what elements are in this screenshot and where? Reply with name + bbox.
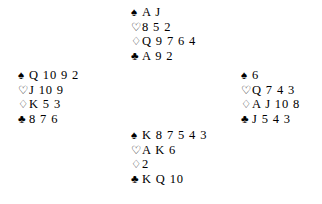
north-diamonds-ranks: Q 9 7 6 4: [142, 34, 196, 49]
north-spades-ranks: A J: [142, 5, 161, 20]
west-spades-ranks: Q 10 9 2: [29, 68, 79, 83]
west-clubs-line: ♣ 8 7 6: [18, 112, 79, 127]
east-hearts-line: ♡ Q 7 4 3: [241, 83, 300, 98]
north-clubs-ranks: A 9 2: [142, 49, 173, 64]
west-diamonds-ranks: K 5 3: [29, 97, 61, 112]
east-spades-line: ♠ 6: [241, 68, 300, 83]
spade-icon: ♠: [18, 68, 29, 83]
west-hearts-ranks: J 10 9: [29, 83, 64, 98]
east-hearts-ranks: Q 7 4 3: [252, 83, 295, 98]
south-diamonds-ranks: 2: [142, 157, 149, 172]
spade-icon: ♠: [131, 128, 142, 143]
south-spades-line: ♠ K 8 7 5 4 3: [131, 128, 207, 143]
west-hearts-line: ♡ J 10 9: [18, 83, 79, 98]
diamond-icon: ♢: [18, 97, 29, 112]
diamond-icon: ♢: [131, 157, 142, 172]
diamond-icon: ♢: [241, 97, 252, 112]
south-hearts-line: ♡ A K 6: [131, 143, 207, 158]
club-icon: ♣: [241, 112, 252, 127]
club-icon: ♣: [18, 112, 29, 127]
east-clubs-ranks: J 5 4 3: [252, 112, 291, 127]
spade-icon: ♠: [241, 68, 252, 83]
hand-west: ♠ Q 10 9 2 ♡ J 10 9 ♢ K 5 3 ♣ 8 7 6: [18, 68, 79, 126]
west-spades-line: ♠ Q 10 9 2: [18, 68, 79, 83]
bridge-hand-diagram: ♠ A J ♡ 8 5 2 ♢ Q 9 7 6 4 ♣ A 9 2 ♠ Q 10…: [0, 0, 322, 204]
heart-icon: ♡: [131, 20, 142, 35]
north-clubs-line: ♣ A 9 2: [131, 49, 196, 64]
east-diamonds-ranks: A J 10 8: [252, 97, 300, 112]
south-spades-ranks: K 8 7 5 4 3: [142, 128, 207, 143]
diamond-icon: ♢: [131, 34, 142, 49]
east-diamonds-line: ♢ A J 10 8: [241, 97, 300, 112]
hand-south: ♠ K 8 7 5 4 3 ♡ A K 6 ♢ 2 ♣ K Q 10: [131, 128, 207, 186]
west-diamonds-line: ♢ K 5 3: [18, 97, 79, 112]
hand-east: ♠ 6 ♡ Q 7 4 3 ♢ A J 10 8 ♣ J 5 4 3: [241, 68, 300, 126]
east-spades-ranks: 6: [252, 68, 259, 83]
north-spades-line: ♠ A J: [131, 5, 196, 20]
north-hearts-line: ♡ 8 5 2: [131, 20, 196, 35]
spade-icon: ♠: [131, 5, 142, 20]
west-clubs-ranks: 8 7 6: [29, 112, 58, 127]
east-clubs-line: ♣ J 5 4 3: [241, 112, 300, 127]
south-clubs-line: ♣ K Q 10: [131, 172, 207, 187]
club-icon: ♣: [131, 49, 142, 64]
heart-icon: ♡: [18, 83, 29, 98]
heart-icon: ♡: [131, 143, 142, 158]
north-diamonds-line: ♢ Q 9 7 6 4: [131, 34, 196, 49]
south-clubs-ranks: K Q 10: [142, 172, 184, 187]
north-hearts-ranks: 8 5 2: [142, 20, 171, 35]
club-icon: ♣: [131, 172, 142, 187]
heart-icon: ♡: [241, 83, 252, 98]
south-diamonds-line: ♢ 2: [131, 157, 207, 172]
hand-north: ♠ A J ♡ 8 5 2 ♢ Q 9 7 6 4 ♣ A 9 2: [131, 5, 196, 63]
south-hearts-ranks: A K 6: [142, 143, 176, 158]
